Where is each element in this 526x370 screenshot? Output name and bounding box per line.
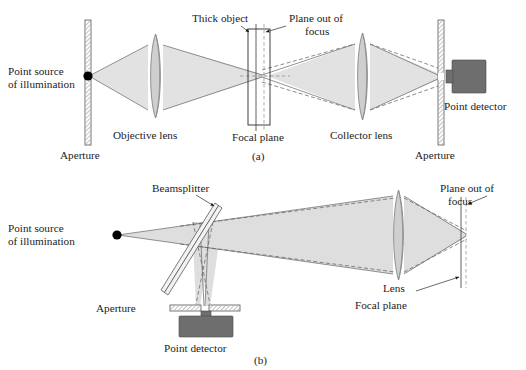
beam-focus-to-collector [262,44,355,110]
optical-diagram-svg: Point source of illumination Aperture Ob… [0,0,526,370]
panel-label-a: (a) [252,150,265,163]
label-aperture-left-a: Aperture [60,149,100,161]
leader-focal-plane-b [416,277,459,291]
label-focal-plane-a: Focal plane [232,131,284,143]
label-lens-b: Lens [383,282,405,294]
leader-beamsplitter [196,195,214,206]
beam-lens-to-focus-b [404,196,466,274]
panel-a: Point source of illumination Aperture Ob… [8,12,507,163]
beam-source-to-objective [89,45,148,110]
label-point-source-b-line2: of illumination [8,235,75,247]
label-beamsplitter-b: Beamsplitter [152,182,209,194]
label-focal-plane-b: Focal plane [355,299,407,311]
point-source-dot-a [83,71,92,80]
beam-objective-to-focus [163,45,262,110]
figure-root: Point source of illumination Aperture Ob… [0,0,526,370]
label-point-detector-b: Point detector [164,342,227,354]
lens-b [394,190,404,280]
panel-b: Point source of illumination Beamsplitte… [8,182,494,367]
point-source-dot-b [112,230,121,239]
beam-collector-to-detector [370,44,440,110]
label-thick-object-a: Thick object [192,12,249,24]
collector-lens-a [358,33,368,120]
point-detector-block-b [179,316,233,337]
label-aperture-b: Aperture [96,302,136,314]
point-detector-block-a [452,60,486,93]
aperture-left-a [85,20,91,145]
label-plane-out-of-focus-a-line1: Plane out of [289,12,343,24]
label-plane-out-of-focus-b-line2: focus [448,195,472,207]
label-point-detector-a: Point detector [444,100,507,112]
aperture-right-a [438,20,444,145]
label-plane-out-of-focus-b-line1: Plane out of [440,182,494,194]
point-detector-nose-a [446,70,453,83]
beam-source-to-lens-b [118,196,393,274]
label-point-source-a-line2: of illumination [8,78,75,90]
objective-lens-a [151,34,161,118]
label-plane-out-of-focus-a-line2: focus [305,25,329,37]
panel-label-b: (b) [254,354,267,367]
label-aperture-right-a: Aperture [415,149,455,161]
label-point-source-b-line1: Point source [8,222,64,234]
label-point-source-a-line1: Point source [8,65,64,77]
label-objective-lens-a: Objective lens [113,129,177,141]
label-collector-lens-a: Collector lens [330,129,392,141]
